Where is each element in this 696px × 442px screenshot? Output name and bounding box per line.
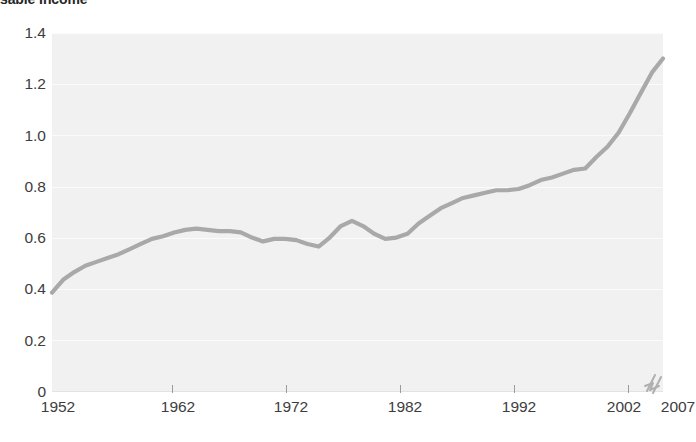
data-line-household-debt <box>52 59 663 293</box>
x-axis-label: 1982 <box>388 398 422 416</box>
y-axis-label: 1.4 <box>24 25 46 41</box>
y-axis-label: 0.2 <box>24 333 46 349</box>
x-axis-label: 1972 <box>274 398 308 416</box>
x-axis-tick <box>628 385 629 393</box>
y-axis-label: 0.6 <box>24 230 46 246</box>
y-axis-label: 0.4 <box>24 281 46 297</box>
x-axis-tick <box>514 385 515 393</box>
x-axis-line <box>52 391 663 392</box>
x-axis-label: 2007 <box>661 398 695 416</box>
x-axis-label: 1952 <box>41 398 75 416</box>
chart-container: sable Income 1.4 1.2 1.0 0.8 0.6 0.4 0.2… <box>0 0 696 442</box>
zigzag-axis-break-icon <box>643 371 669 399</box>
y-axis: 1.4 1.2 1.0 0.8 0.6 0.4 0.2 0 <box>0 0 46 442</box>
x-axis-label: 1962 <box>161 398 195 416</box>
y-axis-label: 1.2 <box>24 76 46 92</box>
x-axis-tick <box>172 385 173 393</box>
x-axis-tick <box>286 385 287 393</box>
x-axis-label: 2002 <box>607 398 641 416</box>
y-axis-label: 1.0 <box>24 128 46 144</box>
x-axis-label: 1992 <box>502 398 536 416</box>
x-axis-tick <box>400 385 401 393</box>
series-layer <box>52 33 663 391</box>
y-axis-label: 0.8 <box>24 179 46 195</box>
